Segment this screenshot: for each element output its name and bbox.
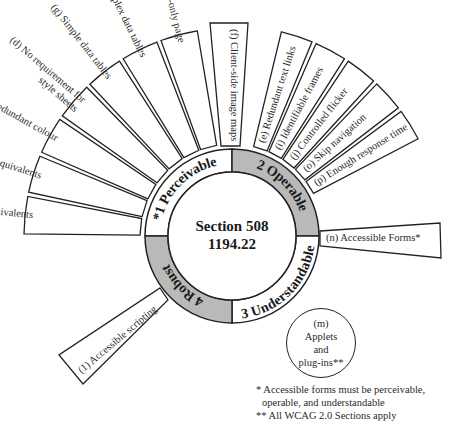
svg-text:(c) Redundant colour: (c) Redundant colour bbox=[0, 90, 61, 144]
svg-text:(n) Accessible Forms*: (n) Accessible Forms* bbox=[326, 232, 421, 244]
svg-text:(g) Simple data tables: (g) Simple data tables bbox=[48, 2, 114, 82]
circle-m-line3: and bbox=[313, 343, 328, 356]
perceivable-item-label: (b) Multimedia equivalents bbox=[0, 136, 43, 182]
svg-text:(b) Multimedia equivalents: (b) Multimedia equivalents bbox=[0, 136, 43, 182]
footnote-2: ** All WCAG 2.0 Sections apply bbox=[256, 409, 456, 422]
footnotes: * Accessible forms must be perceivable, … bbox=[256, 383, 456, 422]
svg-text:(f) Client-side image maps: (f) Client-side image maps bbox=[228, 29, 240, 141]
accessible-forms-box: (n) Accessible Forms* bbox=[320, 223, 441, 258]
wheel-diagram: (a) Text equivalents(b) Multimedia equiv… bbox=[0, 0, 459, 440]
perceivable-item-label: (h) Complex data tables bbox=[94, 0, 149, 59]
svg-text:(h) Complex data tables: (h) Complex data tables bbox=[94, 0, 149, 59]
svg-text:(d) No requirement for: (d) No requirement for bbox=[7, 34, 88, 106]
center-title: Section 508 bbox=[196, 218, 269, 234]
applets-plugins-circle: (m) Applets and plug-ins** bbox=[286, 308, 356, 378]
perceivable-item-label: (d) No requirement forstyle sheets bbox=[7, 34, 88, 114]
circle-m-line1: (m) bbox=[313, 317, 328, 330]
section-508-diagram: (a) Text equivalents(b) Multimedia equiv… bbox=[0, 0, 459, 440]
perceivable-item-label: (c) Redundant colour bbox=[0, 90, 61, 144]
perceivable-item-label: (g) Simple data tables bbox=[48, 2, 114, 82]
footnote-1-cont: operable, and understandable bbox=[256, 396, 456, 409]
client-side-image-maps-box: (f) Client-side image maps bbox=[210, 23, 248, 146]
accessible-scripting-box: (1) Accessible scripting bbox=[59, 288, 168, 384]
center-subtitle: 1194.22 bbox=[208, 236, 256, 252]
circle-m-line4: plug-ins** bbox=[299, 356, 344, 369]
footnote-1: * Accessible forms must be perceivable, bbox=[256, 383, 456, 396]
circle-m-line2: Applets bbox=[305, 330, 338, 343]
